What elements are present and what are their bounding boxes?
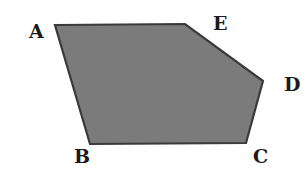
vertex-label-e: E	[213, 12, 227, 34]
vertex-label-d: D	[284, 73, 300, 95]
pentagon-abcde	[55, 24, 263, 144]
vertex-label-c: C	[253, 145, 268, 167]
vertex-label-a: A	[28, 20, 44, 42]
pentagon-diagram: A E D C B	[0, 0, 307, 172]
vertex-label-b: B	[74, 145, 90, 167]
